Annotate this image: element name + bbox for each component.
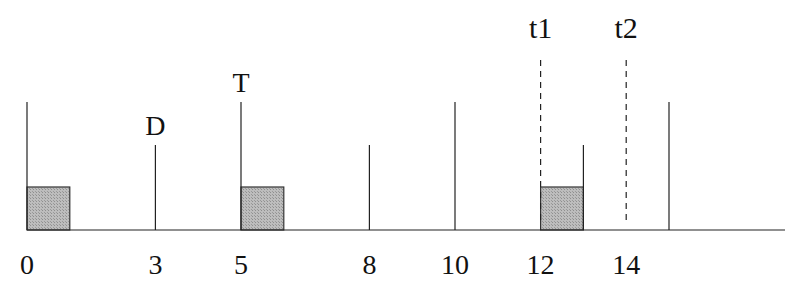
time-label-t1: t1 xyxy=(529,11,552,44)
tick-label: 10 xyxy=(441,249,469,280)
tick-label: 14 xyxy=(612,249,640,280)
marker-label-D: D xyxy=(145,110,165,141)
execution-box xyxy=(541,187,584,230)
timeline-diagram: t1t2DT0358101214 xyxy=(0,0,803,292)
execution-box xyxy=(27,187,70,230)
tick-label: 8 xyxy=(362,249,376,280)
time-label-t2: t2 xyxy=(615,11,638,44)
marker-label-T: T xyxy=(232,67,249,98)
tick-label: 12 xyxy=(527,249,555,280)
timeline-svg: t1t2DT0358101214 xyxy=(0,0,803,292)
tick-label: 0 xyxy=(20,249,34,280)
tick-label: 3 xyxy=(148,249,162,280)
tick-label: 5 xyxy=(234,249,248,280)
execution-box xyxy=(241,187,284,230)
